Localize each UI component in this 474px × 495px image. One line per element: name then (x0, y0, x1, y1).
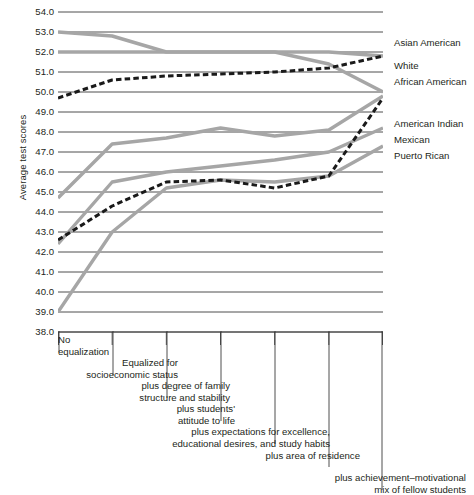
x-caption-stage-2: plus degree of family structure and stab… (139, 380, 230, 403)
x-caption-stage-0: No equalization (58, 334, 109, 357)
y-tick-label: 39.0 (20, 307, 54, 317)
series-line (58, 128, 383, 244)
legend-label-asian-american: Asian American (394, 38, 461, 48)
y-tick-label: 50.0 (20, 87, 54, 97)
series-line (58, 96, 383, 198)
plot-area (58, 0, 383, 345)
series-line (58, 146, 383, 312)
series-line (58, 98, 383, 240)
y-tick-label: 40.0 (20, 287, 54, 297)
legend-label-african-american: African American (394, 77, 467, 87)
x-caption-stage-5: plus area of residence (266, 450, 360, 462)
y-tick-label: 52.0 (20, 47, 54, 57)
x-caption-stage-6: plus achievement–motivational mix of fel… (335, 472, 466, 495)
y-tick-label: 48.0 (20, 127, 54, 137)
y-tick-label: 45.0 (20, 187, 54, 197)
x-caption-stage-3: plus students' attitude to life (177, 403, 235, 426)
y-tick-label: 42.0 (20, 247, 54, 257)
y-tick-label: 54.0 (20, 7, 54, 17)
y-tick-label: 49.0 (20, 107, 54, 117)
legend: Asian AmericanWhiteAfrican AmericanAmeri… (394, 0, 474, 200)
legend-label-white: White (394, 61, 419, 71)
y-tick-label: 51.0 (20, 67, 54, 77)
x-caption-stage-1: Equalized for socioeconomic status (86, 357, 178, 380)
y-tick-label: 47.0 (20, 147, 54, 157)
y-tick-label: 44.0 (20, 207, 54, 217)
y-tick-label: 41.0 (20, 267, 54, 277)
legend-label-puerto-rican: Puerto Rican (394, 151, 449, 161)
x-caption-stage-4: plus expectations for excellence, educat… (172, 426, 330, 449)
y-tick-label: 43.0 (20, 227, 54, 237)
x-axis-captions: No equalizationEqualized for socioeconom… (0, 330, 474, 491)
y-tick-label: 53.0 (20, 27, 54, 37)
y-axis-tick-labels: 54.053.052.051.050.049.048.047.046.045.0… (20, 0, 54, 345)
legend-label-american-indian: American Indian (394, 119, 463, 129)
y-tick-label: 46.0 (20, 167, 54, 177)
legend-label-mexican: Mexican (394, 135, 430, 145)
chart-svg (58, 0, 383, 345)
